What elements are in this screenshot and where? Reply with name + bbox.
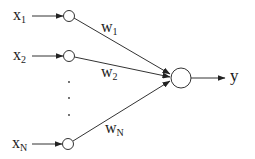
- input-label-2: x2: [13, 47, 26, 63]
- ellipsis-dot: [68, 81, 70, 83]
- weight-label-2: w2: [101, 64, 118, 80]
- input-node-n: [63, 139, 74, 150]
- output-label: y: [230, 68, 239, 84]
- perceptron-diagram: x1 x2 xN w1 w2 wN y: [0, 0, 255, 159]
- weight-connection-1: [74, 18, 170, 74]
- input-node-1: [64, 11, 75, 22]
- diagram-graphics: [0, 0, 255, 159]
- weight-label-n: wN: [105, 120, 124, 136]
- ellipsis-dot: [68, 97, 70, 99]
- input-label-1: x1: [13, 7, 26, 23]
- ellipsis-dot: [68, 114, 70, 116]
- weight-label-1: w1: [101, 19, 118, 35]
- input-label-n: xN: [12, 135, 27, 151]
- output-neuron: [171, 68, 191, 88]
- weight-connection-2: [75, 57, 171, 77]
- input-node-2: [64, 51, 75, 62]
